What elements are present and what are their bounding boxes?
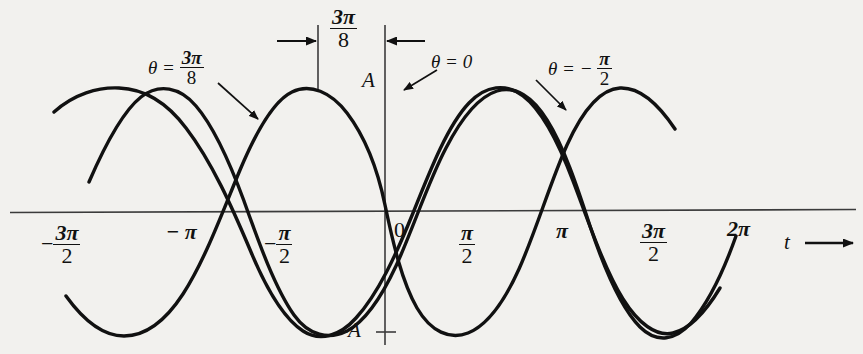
- tick-label-neg-pi-2: − π 2: [264, 222, 292, 268]
- annotation-theta-3pi-8-numerator: 3π: [180, 48, 204, 68]
- tick-label-neg-pi: − π: [166, 221, 197, 243]
- tick-neg-3pi-2-numerator: 3π: [53, 222, 80, 245]
- annotation-theta-3pi-8-prefix: θ =: [148, 57, 175, 78]
- amplitude-label-positive: A: [362, 70, 375, 91]
- tick-pi-2-denominator: 2: [459, 245, 475, 267]
- dimension-numerator: 3π: [330, 6, 357, 29]
- annotation-theta-minus-pi-2: θ = − π 2: [548, 49, 612, 89]
- tick-neg-3pi-2-sign: −: [41, 231, 53, 256]
- annotation-theta-3pi-8-denominator: 8: [180, 68, 204, 87]
- annotation-theta-minus-pi-2-denominator: 2: [597, 69, 611, 88]
- tick-pi-2-numerator: π: [459, 222, 475, 245]
- x-axis-label: t: [784, 232, 790, 253]
- x-axis-line: [10, 210, 856, 213]
- tick-neg-pi-2-numerator: π: [276, 222, 292, 245]
- annotation-theta-0-text: θ = 0: [431, 51, 472, 72]
- annotation-theta-minus-pi-2-prefix: θ = −: [548, 58, 592, 79]
- annotation-theta-minus-pi-2-numerator: π: [597, 49, 611, 69]
- annotation-theta-0: θ = 0: [431, 52, 472, 71]
- amplitude-label-negative: -A: [341, 320, 361, 341]
- tick-3pi-2-denominator: 2: [640, 243, 667, 265]
- leader-theta-3pi-8: [218, 83, 258, 119]
- leader-theta-0: [404, 70, 437, 90]
- tick-label-pi-2: π 2: [459, 222, 475, 268]
- tick-label-3pi-2: 3π 2: [640, 220, 667, 266]
- tick-label-2pi: 2π: [727, 218, 750, 240]
- tick-neg-3pi-2-denominator: 2: [53, 245, 80, 267]
- dimension-label: 3π 8: [330, 6, 357, 52]
- tick-neg-pi-2-denominator: 2: [276, 245, 292, 267]
- tick-label-neg-3pi-2: − 3π 2: [41, 222, 80, 268]
- tick-label-pi: π: [556, 220, 568, 242]
- annotation-theta-3pi-8: θ = 3π 8: [148, 48, 204, 88]
- sinusoid-phase-figure: 3π 8 θ = 3π 8 θ = 0 θ = − π 2 A -A − 3π …: [0, 0, 863, 354]
- dimension-denominator: 8: [330, 29, 357, 51]
- tick-neg-pi-2-sign: −: [264, 231, 276, 256]
- tick-3pi-2-numerator: 3π: [640, 220, 667, 243]
- tick-label-zero: 0: [394, 219, 405, 241]
